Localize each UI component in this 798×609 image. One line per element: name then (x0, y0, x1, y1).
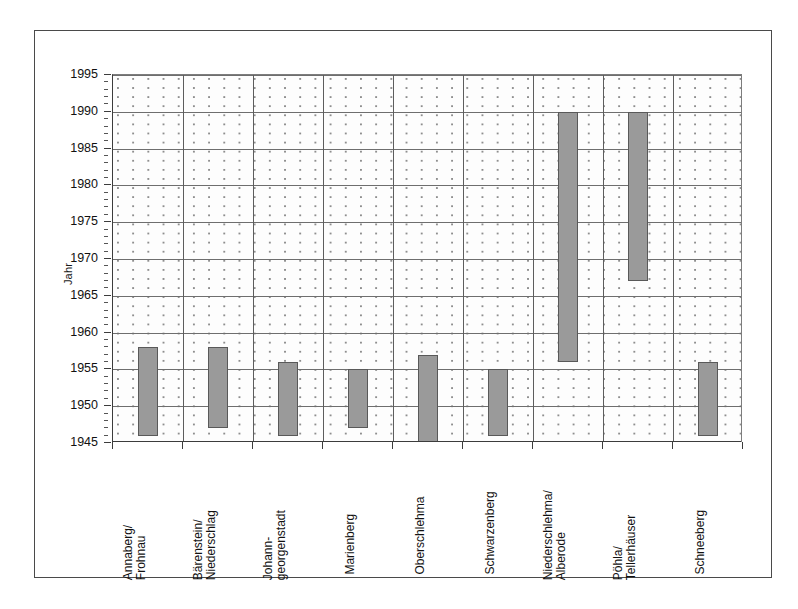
y-tick-minor (104, 199, 108, 200)
category-label-8: Schneeberg (694, 454, 707, 574)
y-tick-minor (104, 310, 108, 311)
y-tick-label-1975: 1975 (50, 215, 98, 228)
y-tick-minor (104, 427, 108, 428)
y-tick-minor (104, 302, 108, 303)
y-tick-minor (104, 118, 108, 119)
y-tick-major (104, 332, 111, 333)
y-tick-minor (104, 376, 108, 377)
y-tick-minor (104, 251, 108, 252)
y-tick-minor (104, 162, 108, 163)
y-tick-minor (104, 155, 108, 156)
y-tick-minor (104, 346, 108, 347)
category-label-1: Bärenstein/ Niederschlag (192, 461, 217, 581)
y-axis-ticks (104, 74, 112, 443)
category-label-7: Pöhla/ Tellerhäuser (612, 461, 637, 581)
y-tick-minor (104, 273, 108, 274)
y-tick-minor (104, 81, 108, 82)
y-tick-minor (104, 126, 108, 127)
bar-niederschlehma-alberode[interactable] (558, 112, 578, 362)
y-tick-minor (104, 280, 108, 281)
gridline-1995 (113, 75, 741, 76)
x-tick (392, 442, 393, 449)
y-tick-major (104, 368, 111, 369)
bar-b-renstein-niederschlag[interactable] (208, 347, 228, 428)
category-separator (253, 75, 254, 442)
y-tick-minor (104, 89, 108, 90)
y-tick-major (104, 148, 111, 149)
x-axis-category-labels: Annaberg/ FrohnauBärenstein/ Niederschla… (112, 452, 743, 574)
y-tick-minor (104, 206, 108, 207)
y-tick-minor (104, 361, 108, 362)
category-separator (533, 75, 534, 442)
x-tick (112, 442, 113, 449)
category-label-5: Schwarzenberg (484, 454, 497, 574)
y-tick-major (104, 221, 111, 222)
category-separator (673, 75, 674, 442)
category-separator (323, 75, 324, 442)
y-tick-label-1960: 1960 (50, 326, 98, 339)
y-tick-label-1955: 1955 (50, 362, 98, 375)
bar-schneeberg[interactable] (698, 362, 718, 436)
gridline-1965 (113, 296, 741, 297)
y-tick-minor (104, 214, 108, 215)
y-tick-minor (104, 413, 108, 414)
x-tick (182, 442, 183, 449)
plot-area (112, 74, 742, 442)
category-label-6: Niederschlehma/ Alberode (542, 461, 567, 581)
y-tick-label-1945: 1945 (50, 436, 98, 449)
y-tick-minor (104, 103, 108, 104)
y-tick-minor (104, 420, 108, 421)
y-tick-major (104, 295, 111, 296)
bar-marienberg[interactable] (348, 369, 368, 428)
category-separator (393, 75, 394, 442)
y-tick-major (104, 258, 111, 259)
x-tick (252, 442, 253, 449)
y-tick-minor (104, 383, 108, 384)
category-separator (603, 75, 604, 442)
x-tick (742, 442, 743, 449)
x-tick (322, 442, 323, 449)
y-tick-label-1950: 1950 (50, 399, 98, 412)
y-tick-label-1990: 1990 (50, 105, 98, 118)
bar-p-hla-tellerh-user[interactable] (628, 112, 648, 281)
bar-annaberg-frohnau[interactable] (138, 347, 158, 435)
bar-johanngeorgenstadt[interactable] (278, 362, 298, 436)
category-label-4: Oberschlehma (414, 454, 427, 574)
y-tick-minor (104, 287, 108, 288)
category-label-2: Johann- georgenstadt (262, 461, 287, 581)
y-axis-tick-labels: 1995199019851980197519701965196019551950… (46, 74, 98, 443)
y-tick-minor (104, 192, 108, 193)
y-tick-minor (104, 339, 108, 340)
y-tick-minor (104, 140, 108, 141)
y-tick-major (104, 405, 111, 406)
y-tick-major (104, 111, 111, 112)
y-tick-minor (104, 354, 108, 355)
y-tick-minor (104, 398, 108, 399)
y-tick-minor (104, 133, 108, 134)
chart-canvas: Jahr 19951990198519801975197019651960195… (0, 0, 798, 609)
gridline-1960 (113, 333, 741, 334)
y-tick-minor (104, 265, 108, 266)
y-tick-label-1970: 1970 (50, 252, 98, 265)
y-tick-minor (104, 229, 108, 230)
y-tick-major (104, 442, 111, 443)
bar-schwarzenberg[interactable] (488, 369, 508, 435)
category-label-0: Annaberg/ Frohnau (122, 461, 147, 581)
y-tick-minor (104, 170, 108, 171)
x-tick (672, 442, 673, 449)
x-axis-ticks (112, 442, 743, 450)
category-separator (463, 75, 464, 442)
y-tick-major (104, 184, 111, 185)
y-tick-label-1965: 1965 (50, 289, 98, 302)
y-tick-minor (104, 96, 108, 97)
x-tick (462, 442, 463, 449)
category-separator (183, 75, 184, 442)
x-tick (602, 442, 603, 449)
y-tick-label-1980: 1980 (50, 178, 98, 191)
y-tick-label-1985: 1985 (50, 142, 98, 155)
y-tick-minor (104, 435, 108, 436)
bar-oberschlehma[interactable] (418, 355, 438, 442)
y-tick-minor (104, 243, 108, 244)
x-tick (532, 442, 533, 449)
y-tick-minor (104, 317, 108, 318)
